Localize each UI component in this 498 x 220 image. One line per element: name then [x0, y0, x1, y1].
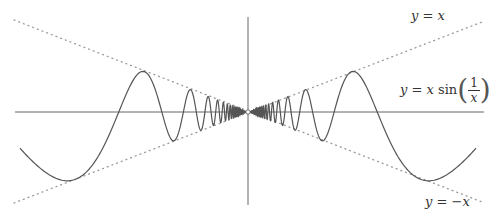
- label-y-equals-x: y = x: [411, 8, 445, 23]
- plot-canvas: [0, 0, 498, 220]
- label-curve: y = x sin(1x): [400, 76, 491, 104]
- label-x: x: [427, 82, 434, 97]
- fraction-numerator: 1: [468, 77, 480, 91]
- label-sin: sin: [438, 82, 457, 97]
- right-paren: ): [480, 73, 491, 106]
- label-eq: =: [423, 8, 434, 23]
- fraction: 1x: [468, 77, 480, 104]
- label-lhs: y: [411, 8, 418, 23]
- origin-marker: [246, 110, 250, 114]
- label-lhs: y: [425, 194, 432, 209]
- label-rhs: −x: [452, 194, 470, 209]
- label-rhs: x: [438, 8, 445, 23]
- left-paren: (: [457, 73, 468, 106]
- label-y-equals-neg-x: y = −x: [425, 194, 470, 209]
- label-lhs: y: [400, 82, 407, 97]
- fraction-denominator: x: [471, 91, 478, 104]
- label-eq: =: [412, 82, 423, 97]
- label-eq: =: [437, 194, 448, 209]
